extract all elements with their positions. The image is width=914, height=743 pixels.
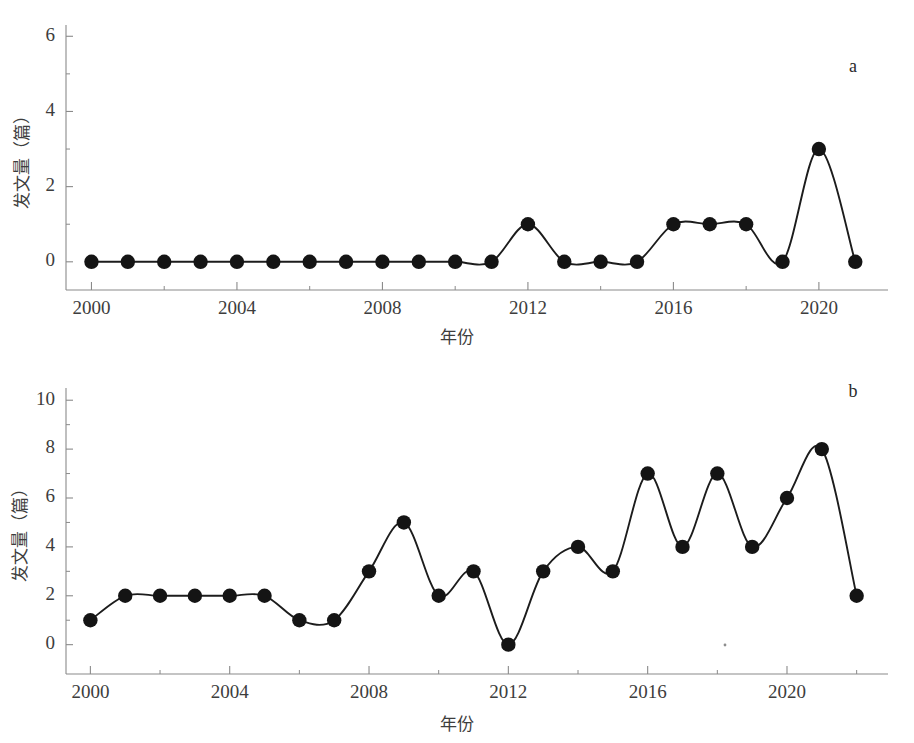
data-point-marker[interactable] (121, 255, 135, 269)
data-series-line (90, 446, 856, 645)
data-point-marker[interactable] (630, 255, 644, 269)
data-point-marker[interactable] (593, 255, 607, 269)
data-point-marker[interactable] (812, 142, 826, 156)
data-point-marker[interactable] (703, 217, 717, 231)
x-axis-title: 年份 (440, 714, 474, 734)
panel-letter-b: b (849, 381, 858, 401)
data-point-marker[interactable] (153, 589, 167, 603)
y-tick-label: 6 (46, 485, 56, 506)
y-tick-label: 6 (46, 24, 56, 45)
data-series-line (91, 149, 855, 265)
data-point-marker[interactable] (375, 255, 389, 269)
x-tick-label: 2020 (768, 681, 806, 702)
y-tick-label: 0 (46, 632, 56, 653)
x-tick-label: 2012 (489, 681, 527, 702)
data-point-marker[interactable] (327, 613, 341, 627)
data-point-marker[interactable] (266, 255, 280, 269)
data-point-marker[interactable] (536, 564, 550, 578)
line-chart-a: 0246200020042008201220162020发文量（篇）年份a (0, 0, 914, 371)
x-tick-label: 2008 (363, 297, 401, 318)
data-point-marker[interactable] (775, 255, 789, 269)
data-point-marker[interactable] (848, 255, 862, 269)
figure-canvas: 0246200020042008201220162020发文量（篇）年份a 02… (0, 0, 914, 743)
data-point-marker[interactable] (484, 255, 498, 269)
data-point-marker[interactable] (849, 589, 863, 603)
data-point-marker[interactable] (710, 466, 724, 480)
data-point-marker[interactable] (193, 255, 207, 269)
y-tick-label: 10 (36, 388, 55, 409)
data-point-marker[interactable] (780, 491, 794, 505)
y-tick-label: 2 (46, 174, 56, 195)
chart-panel-b: 0246810200020042008201220162020发文量（篇）年份b (0, 371, 914, 743)
data-point-marker[interactable] (230, 255, 244, 269)
data-point-marker[interactable] (501, 637, 515, 651)
y-tick-label: 0 (46, 249, 56, 270)
y-axis-title: 发文量（篇） (12, 107, 32, 209)
data-point-marker[interactable] (466, 564, 480, 578)
x-tick-label: 2000 (71, 681, 109, 702)
x-tick-label: 2008 (350, 681, 388, 702)
data-point-marker[interactable] (640, 466, 654, 480)
data-point-marker[interactable] (257, 589, 271, 603)
x-tick-label: 2020 (800, 297, 838, 318)
data-point-marker[interactable] (666, 217, 680, 231)
y-tick-label: 4 (46, 534, 56, 555)
scan-artifact-dot (724, 644, 727, 647)
y-axis-title: 发文量（篇） (10, 480, 30, 582)
data-point-marker[interactable] (292, 613, 306, 627)
data-point-marker[interactable] (302, 255, 316, 269)
data-point-marker[interactable] (448, 255, 462, 269)
data-point-marker[interactable] (188, 589, 202, 603)
data-point-marker[interactable] (606, 564, 620, 578)
x-tick-label: 2016 (654, 297, 692, 318)
data-point-marker[interactable] (397, 515, 411, 529)
data-point-marker[interactable] (431, 589, 445, 603)
data-point-marker[interactable] (571, 540, 585, 554)
panel-letter-a: a (849, 56, 857, 76)
data-point-marker[interactable] (223, 589, 237, 603)
data-point-marker[interactable] (739, 217, 753, 231)
x-tick-label: 2000 (72, 297, 110, 318)
x-tick-label: 2004 (211, 681, 250, 702)
data-point-marker[interactable] (521, 217, 535, 231)
data-point-marker[interactable] (412, 255, 426, 269)
data-point-marker[interactable] (83, 613, 97, 627)
data-point-marker[interactable] (84, 255, 98, 269)
data-point-marker[interactable] (675, 540, 689, 554)
data-point-marker[interactable] (815, 442, 829, 456)
data-point-marker[interactable] (557, 255, 571, 269)
line-chart-b: 0246810200020042008201220162020发文量（篇）年份b (0, 371, 914, 743)
data-point-marker[interactable] (339, 255, 353, 269)
y-tick-label: 8 (46, 436, 56, 457)
chart-panel-a: 0246200020042008201220162020发文量（篇）年份a (0, 0, 914, 371)
data-point-marker[interactable] (362, 564, 376, 578)
x-axis-title: 年份 (440, 327, 474, 347)
data-point-marker[interactable] (745, 540, 759, 554)
x-tick-label: 2004 (218, 297, 257, 318)
data-point-marker[interactable] (118, 589, 132, 603)
x-tick-label: 2016 (629, 681, 667, 702)
y-tick-label: 4 (46, 99, 56, 120)
x-tick-label: 2012 (509, 297, 547, 318)
y-tick-label: 2 (46, 583, 56, 604)
data-point-marker[interactable] (157, 255, 171, 269)
